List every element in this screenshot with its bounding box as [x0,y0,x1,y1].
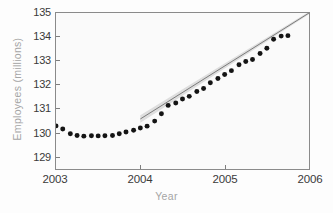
y-axis-title: Employees (millions) [11,19,23,159]
y-tick-mark [56,133,60,134]
x-tick-mark [225,165,226,169]
y-tick-label: 133 [25,55,51,66]
x-tick-label: 2005 [213,174,238,186]
plot-area [55,12,310,170]
data-point [89,133,94,138]
x-axis-title: Year [0,190,333,202]
data-point [159,111,164,116]
data-points [56,33,290,138]
data-point [166,103,171,108]
data-point [215,76,220,81]
data-point [243,59,248,64]
y-tick-mark [56,36,60,37]
plot-svg [56,13,309,169]
data-point [110,133,115,138]
y-tick-label: 131 [25,103,51,114]
data-point [180,97,185,102]
data-point [138,126,143,131]
data-point [264,46,269,51]
data-point [187,94,192,99]
data-point [201,86,206,91]
confidence-band [140,13,309,123]
data-point [222,72,227,77]
y-tick-mark [56,108,60,109]
y-tick-label: 130 [25,127,51,138]
data-point [145,124,150,129]
x-tick-label: 2004 [128,174,153,186]
data-point [75,133,80,138]
data-point [229,68,234,73]
data-point [208,80,213,85]
data-point [271,37,276,42]
data-point [96,133,101,138]
x-tick-mark [140,165,141,169]
data-point [131,128,136,133]
y-tick-label: 132 [25,79,51,90]
data-point [237,62,242,67]
x-tick-label: 2003 [43,174,68,186]
data-point [117,131,122,136]
y-tick-mark [56,60,60,61]
data-point [279,34,284,39]
data-point [68,131,73,136]
x-tick-label: 2006 [298,174,323,186]
y-tick-label: 134 [25,31,51,42]
y-tick-mark [56,84,60,85]
trend-line-segment [140,13,309,119]
confidence-band-shape [140,13,309,123]
y-tick-label: 135 [25,7,51,18]
data-point [173,101,178,106]
data-point [152,119,157,124]
data-point [250,57,255,62]
data-point [56,123,58,128]
data-point [81,134,86,139]
trend-line [140,13,309,119]
data-point [258,51,263,56]
data-point [124,130,129,135]
data-point [194,89,199,94]
data-point [60,127,65,132]
data-point [102,133,107,138]
employment-scatter-chart: 129130131132133134135 2003200420052006 E… [0,0,333,213]
y-tick-label: 129 [25,151,51,162]
data-point [285,33,290,38]
y-tick-mark [56,157,60,158]
